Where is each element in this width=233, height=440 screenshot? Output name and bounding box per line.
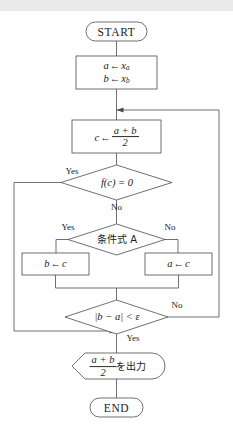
output-suffix: を出力 bbox=[116, 361, 146, 372]
check-tol-yes-label: Yes bbox=[126, 334, 139, 343]
check-root-yes-label: Yes bbox=[65, 167, 78, 176]
init-line1: a←xa bbox=[103, 59, 129, 72]
midpoint-label: c←a + b2 bbox=[94, 125, 138, 149]
init-label: a←xa b←xb bbox=[103, 59, 129, 85]
condition-a-no-label: No bbox=[165, 223, 176, 232]
check-tol-label: |b − a| < ε bbox=[94, 311, 139, 322]
condition-a-yes-label: Yes bbox=[61, 223, 74, 232]
flowchart-canvas: START a←xa b←xb c←a + b2 f(c) = 0 Yes No… bbox=[0, 0, 233, 440]
start-label: START bbox=[98, 25, 136, 37]
check-root-no-label: No bbox=[111, 203, 122, 212]
assign-b-label: b←c bbox=[44, 258, 66, 269]
init-line2: b←xb bbox=[103, 73, 129, 86]
midpoint-fraction: a + b2 bbox=[112, 125, 139, 149]
output-fraction: a + b2 bbox=[90, 354, 117, 378]
check-root-label: f(c) = 0 bbox=[101, 177, 133, 188]
condition-a-label: 条件式 A bbox=[97, 234, 137, 245]
output-label: a + b2を出力 bbox=[90, 354, 147, 378]
check-tol-no-label: No bbox=[172, 301, 183, 310]
end-label: END bbox=[104, 401, 129, 413]
assign-a-label: a←c bbox=[167, 258, 189, 269]
